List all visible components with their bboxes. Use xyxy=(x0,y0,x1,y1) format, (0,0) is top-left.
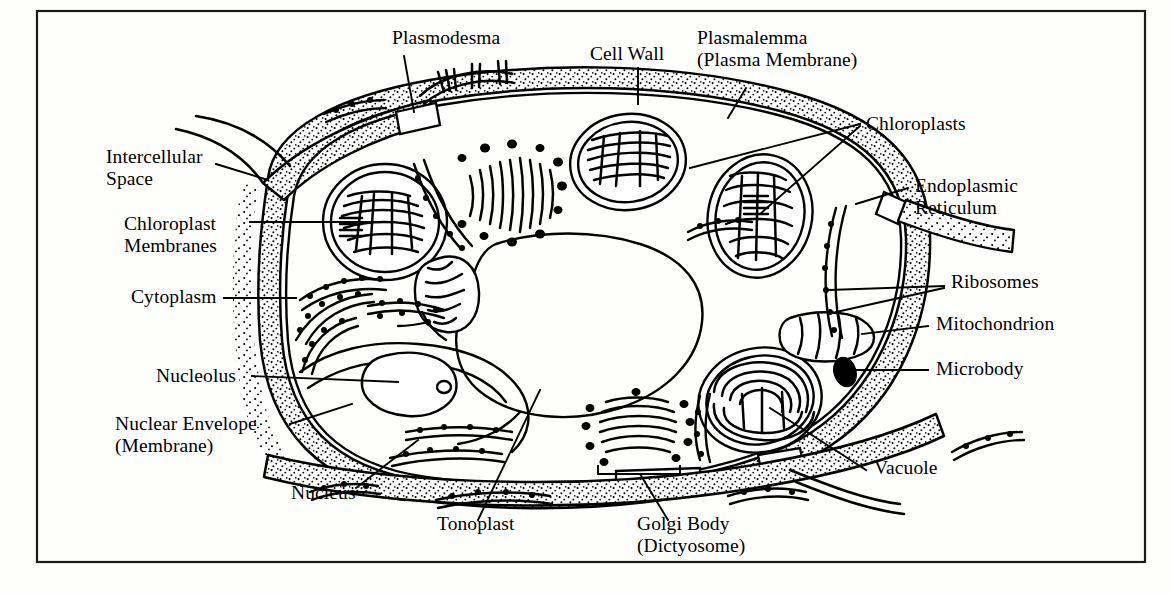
label-golgi-body: Golgi Body xyxy=(637,513,730,534)
mitochondrion-right xyxy=(780,312,875,361)
label-nuclear-envelope-line2: (Membrane) xyxy=(115,435,213,457)
label-microbody: Microbody xyxy=(936,358,1024,379)
label-intercellular-space: Intercellular xyxy=(106,146,203,167)
label-chloroplast-membranes: Chloroplast xyxy=(124,213,217,234)
label-ribosomes: Ribosomes xyxy=(951,271,1039,292)
plant-cell-diagram: Plasmodesma Cell Wall Plasmalemma (Plasm… xyxy=(0,0,1171,594)
label-intercellular-space-line2: Space xyxy=(106,168,153,189)
label-plasmalemma-alt: (Plasma Membrane) xyxy=(697,49,857,71)
label-chloroplast-membranes-line2: Membranes xyxy=(124,235,217,256)
label-nucleolus: Nucleolus xyxy=(156,365,236,386)
nucleolus-inner-vesicle xyxy=(437,381,451,393)
label-nuclear-envelope: Nuclear Envelope xyxy=(115,413,257,434)
mitochondrion-center xyxy=(415,257,479,333)
label-cytoplasm: Cytoplasm xyxy=(131,286,216,307)
mitochondrion-membrane xyxy=(415,257,479,333)
label-plasmodesma: Plasmodesma xyxy=(392,27,501,48)
label-nucleus: Nucleus xyxy=(291,482,356,503)
label-chloroplasts: Chloroplasts xyxy=(866,113,966,134)
mitochondrion-membrane xyxy=(780,312,875,361)
label-golgi-body-line2: (Dictyosome) xyxy=(637,535,745,557)
label-mitochondrion: Mitochondrion xyxy=(936,313,1054,334)
label-plasmalemma: Plasmalemma xyxy=(697,27,808,48)
label-endoplasmic-reticulum-line2: Reticulum xyxy=(915,197,997,218)
label-vacuole: Vacuole xyxy=(874,457,938,478)
label-cell-wall: Cell Wall xyxy=(590,43,665,64)
label-tonoplast: Tonoplast xyxy=(437,513,515,534)
label-endoplasmic-reticulum: Endoplasmic xyxy=(915,175,1018,196)
